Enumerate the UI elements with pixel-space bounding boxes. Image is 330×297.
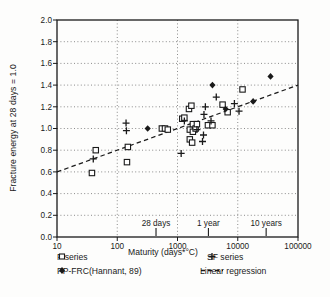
data-point-sf-series bbox=[231, 100, 238, 107]
data-point-pp-frc-hannant-89 bbox=[209, 82, 215, 89]
data-point-f-series bbox=[93, 148, 98, 153]
y-tick-label: 0.2 bbox=[41, 211, 53, 220]
gridlines bbox=[57, 20, 298, 237]
y-axis-title: Fracture energy at 28 days = 1.0 bbox=[8, 64, 18, 192]
data-point-f-series bbox=[124, 159, 129, 164]
data-point-sf-series bbox=[123, 120, 130, 127]
data-point-sf-series bbox=[200, 111, 207, 118]
y-tick-label: 0.8 bbox=[41, 146, 53, 155]
y-tick-label: 1.6 bbox=[41, 59, 53, 68]
legend-item-pp-frc: PP-FRC(Hannant, 89) bbox=[57, 266, 142, 276]
open-square-icon bbox=[57, 252, 68, 261]
annotation-label: 10 years bbox=[250, 219, 281, 228]
filled-diamond-icon bbox=[57, 266, 68, 275]
legend-item-sf-series: SF series bbox=[207, 252, 243, 262]
data-point-f-series bbox=[194, 121, 199, 126]
chart-figure: 101001000100001000000.00.20.40.60.81.01.… bbox=[0, 0, 330, 297]
data-point-pp-frc-hannant-89 bbox=[145, 125, 151, 132]
dashed-line-icon bbox=[200, 266, 224, 275]
annotation-label: 28 days bbox=[142, 219, 171, 228]
data-point-sf-series bbox=[213, 94, 220, 101]
x-tick-label: 100000 bbox=[284, 242, 312, 251]
data-point-f-series bbox=[220, 102, 225, 107]
y-tick-label: 1.4 bbox=[41, 81, 53, 90]
data-point-f-series bbox=[125, 144, 130, 149]
y-tick-label: 0.4 bbox=[41, 189, 53, 198]
time-annotations: 28 days1 year10 years bbox=[142, 219, 282, 237]
y-tick-label: 1.2 bbox=[41, 103, 53, 112]
y-tick-label: 0.0 bbox=[41, 233, 53, 242]
data-point-f-series bbox=[189, 103, 194, 108]
data-point-f-series bbox=[240, 87, 245, 92]
legend-label-pp-frc: PP-FRC(Hannant, 89) bbox=[57, 266, 142, 276]
y-tick-label: 1.8 bbox=[41, 38, 53, 47]
data-point-pp-frc-hannant-89 bbox=[267, 73, 273, 80]
axis-tick-labels: 101001000100001000000.00.20.40.60.81.01.… bbox=[41, 16, 312, 251]
data-point-sf-series bbox=[236, 108, 243, 115]
legend-item-linear-regression: Linear regression bbox=[200, 266, 266, 276]
y-tick-label: 2.0 bbox=[41, 16, 53, 25]
data-point-sf-series bbox=[199, 138, 206, 145]
y-tick-label: 1.0 bbox=[41, 124, 53, 133]
data-point-f-series bbox=[189, 140, 194, 145]
legend-item-f-series: F series bbox=[57, 252, 88, 262]
data-point-f-series bbox=[89, 170, 94, 175]
plus-marker-icon bbox=[207, 252, 218, 261]
data-point-sf-series bbox=[200, 132, 207, 139]
data-point-pp-frc-hannant-89 bbox=[250, 98, 256, 105]
data-point-sf-series bbox=[178, 150, 185, 157]
data-point-sf-series bbox=[90, 155, 97, 162]
data-point-f-series bbox=[165, 127, 170, 132]
annotation-label: 1 year bbox=[197, 219, 220, 228]
axis-ticks bbox=[53, 20, 298, 241]
data-point-sf-series bbox=[202, 103, 209, 110]
y-tick-label: 0.6 bbox=[41, 168, 53, 177]
